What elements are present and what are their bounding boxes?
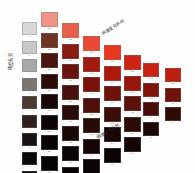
swatch-cell[interactable]: f <box>22 115 37 131</box>
color-chip[interactable] <box>22 152 37 165</box>
color-chip[interactable] <box>165 88 181 102</box>
color-chip[interactable] <box>83 159 100 173</box>
color-chip[interactable] <box>62 146 79 161</box>
color-chip[interactable] <box>83 118 100 133</box>
swatch-cell[interactable]: d-j <box>143 122 159 139</box>
swatch-cell[interactable]: a-g <box>143 63 159 80</box>
swatch-cell[interactable]: f-i <box>83 139 100 157</box>
color-chip[interactable] <box>62 44 79 59</box>
swatch-cell[interactable]: d-e <box>41 74 58 92</box>
color-chip[interactable] <box>143 122 159 136</box>
swatch-cell[interactable]: b-i <box>165 88 181 105</box>
color-chip[interactable] <box>41 53 58 68</box>
color-chip[interactable] <box>62 64 79 79</box>
color-chip[interactable] <box>41 94 58 109</box>
color-chip[interactable] <box>22 133 37 146</box>
swatch-cell[interactable]: d-g <box>83 98 100 116</box>
swatch-cell[interactable]: a-c <box>62 23 79 41</box>
swatch-cell[interactable]: g <box>22 133 37 149</box>
color-chip[interactable] <box>143 63 159 77</box>
color-chip[interactable] <box>83 98 100 113</box>
swatch-cell[interactable]: d-h <box>104 107 121 125</box>
color-chip[interactable] <box>62 126 79 141</box>
color-chip-label: c-h <box>131 111 134 114</box>
swatch-cell[interactable]: e-j <box>124 137 141 155</box>
color-chip[interactable] <box>62 23 79 38</box>
swatch-cell[interactable]: a-d <box>83 36 100 54</box>
color-chip[interactable] <box>104 148 121 163</box>
swatch-cell[interactable]: b-h <box>143 83 159 100</box>
color-chip[interactable] <box>41 33 58 48</box>
color-chip[interactable] <box>104 86 121 101</box>
swatch-cell[interactable]: b-f <box>104 66 121 84</box>
color-chip[interactable] <box>124 55 141 70</box>
swatch-cell[interactable]: f-g <box>41 115 58 133</box>
color-chip[interactable] <box>124 117 141 132</box>
color-chip[interactable] <box>143 102 159 116</box>
swatch-cell[interactable]: c-d <box>41 53 58 71</box>
swatch-cell[interactable]: a-f <box>124 55 141 73</box>
swatch-cell[interactable]: h-j <box>62 167 79 173</box>
swatch-cell[interactable]: b-e <box>83 57 100 75</box>
color-chip-label: h <box>29 165 30 168</box>
color-chip[interactable] <box>22 22 37 35</box>
color-chip[interactable] <box>22 41 37 54</box>
color-chip[interactable] <box>143 83 159 97</box>
color-chip[interactable] <box>165 107 181 121</box>
color-chip[interactable] <box>41 12 58 27</box>
color-chip[interactable] <box>62 85 79 100</box>
swatch-cell[interactable]: b <box>22 41 37 57</box>
color-chip[interactable] <box>124 96 141 111</box>
swatch-cell[interactable]: g-i <box>62 146 79 164</box>
swatch-cell[interactable]: e <box>22 96 37 112</box>
color-chip[interactable] <box>62 167 79 173</box>
color-chip[interactable] <box>22 78 37 91</box>
color-chip[interactable] <box>41 135 58 150</box>
color-chip[interactable] <box>104 45 121 60</box>
swatch-cell[interactable]: c <box>22 59 37 75</box>
color-chip[interactable] <box>83 77 100 92</box>
color-chip[interactable] <box>22 115 37 128</box>
swatch-cell[interactable]: e-g <box>62 105 79 123</box>
color-chip[interactable] <box>83 57 100 72</box>
color-chip[interactable] <box>41 115 58 130</box>
color-chip-label: b-f <box>111 81 114 84</box>
swatch-cell[interactable]: c-e <box>62 64 79 82</box>
swatch-cell[interactable]: c-g <box>104 86 121 104</box>
swatch-cell[interactable]: g-h <box>41 135 58 153</box>
swatch-cell[interactable]: g-j <box>83 159 100 173</box>
swatch-cell[interactable]: c-f <box>83 77 100 95</box>
swatch-cell[interactable]: i <box>22 171 37 173</box>
swatch-cell[interactable]: b-d <box>62 44 79 62</box>
color-chip[interactable] <box>83 36 100 51</box>
swatch-cell[interactable]: d-i <box>124 117 141 135</box>
swatch-cell[interactable]: c-h <box>124 96 141 114</box>
color-chip[interactable] <box>83 139 100 154</box>
color-chip[interactable] <box>104 107 121 122</box>
color-chip[interactable] <box>22 59 37 72</box>
swatch-cell[interactable]: a-e <box>104 45 121 63</box>
swatch-cell[interactable]: h-i <box>41 156 58 173</box>
color-chip[interactable] <box>104 66 121 81</box>
color-chip[interactable] <box>124 137 141 152</box>
swatch-cell[interactable]: h <box>22 152 37 168</box>
swatch-cell[interactable]: d <box>22 78 37 94</box>
swatch-cell[interactable]: d-f <box>62 85 79 103</box>
swatch-cell[interactable]: c-i <box>143 102 159 119</box>
color-chip[interactable] <box>41 74 58 89</box>
swatch-cell[interactable]: b-c <box>41 33 58 51</box>
swatch-cell[interactable]: a-b <box>41 12 58 30</box>
swatch-cell[interactable]: f-j <box>104 148 121 166</box>
swatch-cell[interactable]: a <box>22 22 37 38</box>
swatch-cell[interactable]: c-j <box>165 107 181 124</box>
color-chip[interactable] <box>165 68 181 82</box>
swatch-cell[interactable]: a-h <box>165 68 181 85</box>
color-chip[interactable] <box>22 171 37 173</box>
swatch-cell[interactable]: f-h <box>62 126 79 144</box>
color-chip[interactable] <box>22 96 37 109</box>
color-chip[interactable] <box>41 156 58 171</box>
color-chip[interactable] <box>124 76 141 91</box>
swatch-cell[interactable]: b-g <box>124 76 141 94</box>
swatch-cell[interactable]: e-f <box>41 94 58 112</box>
color-chip[interactable] <box>62 105 79 120</box>
